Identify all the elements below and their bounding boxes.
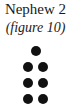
- dot-icon: [23, 78, 33, 88]
- dot-icon: [38, 78, 48, 88]
- dot-icon: [23, 62, 33, 72]
- dot-icon: [38, 62, 48, 72]
- figure-title: Nephew 2: [0, 1, 71, 18]
- dot-icon: [38, 94, 48, 104]
- figure-caption: (figure 10): [0, 19, 71, 36]
- dot-icon: [23, 94, 33, 104]
- dot-icon: [31, 46, 41, 56]
